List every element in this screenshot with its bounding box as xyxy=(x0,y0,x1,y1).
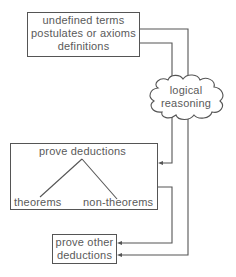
connector-reasoning-to-prove-deductions xyxy=(161,116,172,163)
foundations-line-3: definitions xyxy=(27,40,140,53)
arrowhead-icon xyxy=(117,241,122,245)
branch-non-theorems: non-theorems xyxy=(83,196,153,209)
arrowhead-icon xyxy=(158,161,163,165)
foundations-line-2: postulates or axioms xyxy=(27,27,140,40)
arrowhead-icon xyxy=(117,253,122,257)
reasoning-line-1: logical xyxy=(150,84,222,97)
branch-theorems: theorems xyxy=(14,196,61,209)
connector-foundations-to-prove-other xyxy=(120,29,188,255)
reasoning-line-2: reasoning xyxy=(150,97,222,110)
prove-other-line-2: deductions xyxy=(52,249,117,262)
connector-foundations-to-reasoning xyxy=(139,43,172,80)
foundations-line-1: undefined terms xyxy=(27,14,140,27)
prove-other-line-1: prove other xyxy=(52,236,117,249)
prove-deductions-title: prove deductions xyxy=(10,145,155,158)
